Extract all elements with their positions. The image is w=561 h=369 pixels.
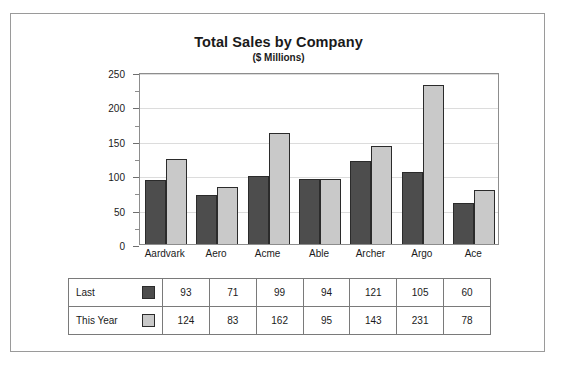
table-cell: 71 [209, 279, 256, 307]
data-table: Last9371999412110560This Year12483162951… [68, 278, 491, 335]
table-cell: 162 [256, 307, 303, 335]
bar [423, 85, 444, 244]
y-tick-label: 150 [85, 137, 125, 148]
x-tick-label: Able [293, 248, 344, 259]
title-block: Total Sales by Company ($ Millions) [11, 34, 546, 64]
x-tick-label: Ace [448, 248, 499, 259]
bar [402, 172, 423, 244]
y-tick-label: 100 [85, 172, 125, 183]
bar [248, 176, 269, 244]
x-tick-label: Archer [345, 248, 396, 259]
table-row: Last9371999412110560 [69, 279, 491, 307]
bar [320, 179, 341, 244]
bar-group [294, 74, 345, 244]
chart-page: Total Sales by Company ($ Millions) 0501… [10, 13, 545, 352]
y-tick-mark [133, 246, 139, 247]
bar [166, 159, 187, 244]
bar-group [449, 74, 499, 244]
table-cell: 99 [256, 279, 303, 307]
series-label-cell: This Year [69, 307, 163, 335]
bar [269, 133, 290, 244]
y-tick-label: 0 [85, 241, 125, 252]
table-cell: 60 [444, 279, 491, 307]
page-title: Total Sales by Company [11, 34, 546, 51]
x-tick-label: Argo [396, 248, 447, 259]
table-cell: 143 [350, 307, 397, 335]
series-label-cell: Last [69, 279, 163, 307]
y-tick-label: 250 [85, 69, 125, 80]
chart-subtitle: ($ Millions) [11, 51, 546, 64]
table-cell: 78 [444, 307, 491, 335]
x-tick-label: Acme [242, 248, 293, 259]
table-cell: 231 [397, 307, 444, 335]
bar-group [397, 74, 448, 244]
bar [217, 187, 238, 244]
bar [350, 161, 371, 244]
bar [453, 203, 474, 244]
bar [474, 190, 495, 244]
x-tick-label: Aardvark [139, 248, 190, 259]
x-tick-label: Aero [190, 248, 241, 259]
plot-wrap: 050100150200250 AardvarkAeroAcmeAbleArch… [129, 73, 499, 258]
series-label: This Year [76, 315, 118, 326]
bar [145, 180, 166, 244]
bar-group [191, 74, 242, 244]
table-cell: 83 [209, 307, 256, 335]
y-tick-label: 50 [85, 206, 125, 217]
bar-group [346, 74, 397, 244]
table-cell: 121 [350, 279, 397, 307]
table-cell: 94 [303, 279, 350, 307]
bar [299, 179, 320, 244]
bar-group [243, 74, 294, 244]
table-cell: 124 [163, 307, 210, 335]
data-table-body: Last9371999412110560This Year12483162951… [69, 279, 491, 335]
table-cell: 95 [303, 307, 350, 335]
bar [371, 146, 392, 244]
bar-group [140, 74, 191, 244]
table-cell: 93 [163, 279, 210, 307]
table-cell: 105 [397, 279, 444, 307]
y-tick-label: 200 [85, 103, 125, 114]
legend-swatch-icon [142, 314, 155, 327]
bar [196, 195, 217, 244]
table-row: This Year124831629514323178 [69, 307, 491, 335]
series-label: Last [76, 287, 95, 298]
plot-area [139, 73, 499, 245]
legend-swatch-icon [142, 286, 155, 299]
